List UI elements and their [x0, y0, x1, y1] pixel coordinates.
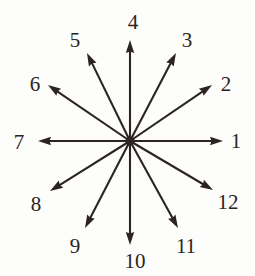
vector-label-3: 3 [182, 30, 193, 51]
vector-label-4: 4 [128, 12, 139, 33]
vector-arrowhead [126, 40, 134, 53]
vector-shaft [91, 61, 130, 141]
vector-arrowhead [38, 137, 51, 145]
radial-vector-diagram: 123456789101112 [0, 0, 255, 276]
vector-shaft [130, 61, 172, 141]
vector-arrowhead [48, 85, 61, 96]
vector-arrowhead [50, 181, 63, 191]
vector-label-10: 10 [125, 251, 146, 272]
center-hub [125, 136, 134, 145]
vector-label-6: 6 [30, 74, 41, 95]
vector-label-8: 8 [31, 194, 42, 215]
vector-label-2: 2 [221, 74, 232, 95]
vector-label-9: 9 [70, 236, 81, 257]
vector-arrowhead [168, 215, 178, 228]
vector-canvas [0, 0, 255, 276]
vector-arrowhead [199, 85, 212, 96]
vector-label-11: 11 [176, 236, 196, 257]
vector-label-1: 1 [231, 131, 242, 152]
vector-shaft [130, 90, 204, 141]
vector-arrowhead [210, 137, 223, 145]
vector-label-7: 7 [14, 132, 25, 153]
vector-arrowhead [126, 232, 134, 245]
vector-shaft [56, 90, 130, 141]
vector-label-5: 5 [70, 30, 81, 51]
vector-label-12: 12 [218, 192, 239, 213]
vector-arrowhead [200, 180, 213, 190]
